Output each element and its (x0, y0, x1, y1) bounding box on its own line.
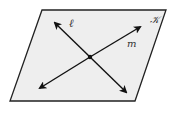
plane-diagram: ℓ m 𝒦 (0, 0, 180, 114)
intersection-point (88, 55, 92, 59)
line-m-label: m (127, 38, 136, 49)
line-l-label: ℓ (69, 17, 74, 30)
